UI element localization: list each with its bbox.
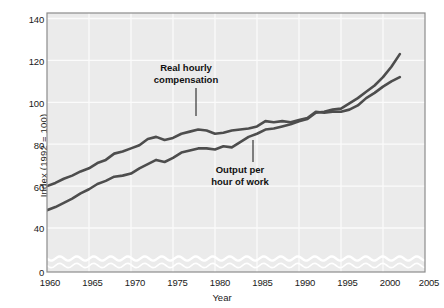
- annotation-line-1: Output per: [216, 164, 265, 175]
- annotation-line-2: compensation: [154, 74, 218, 85]
- annotation-line-2: hour of work: [211, 176, 269, 187]
- annotation-output-per-hour: Output per hour of work: [190, 164, 290, 187]
- plot-background: [47, 13, 425, 272]
- annotation-real-hourly-compensation: Real hourly compensation: [136, 62, 236, 85]
- chart-root: Index (1992 = 100) 0 40 60 80 100 120 14…: [0, 0, 444, 308]
- annotation-line-1: Real hourly: [160, 62, 212, 73]
- plot-area: [0, 0, 444, 308]
